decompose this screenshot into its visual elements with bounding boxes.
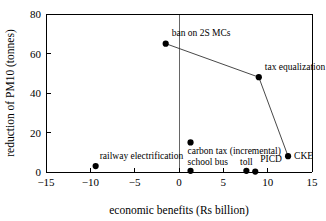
data-point-label: tax equalization (265, 62, 326, 72)
y-axis-title: reduction of PM10 (tonnes) (4, 29, 17, 157)
data-point-label: toll (240, 157, 253, 167)
y-tick-label: 80 (30, 8, 42, 20)
scatter-plot: −15−10−5051015 020406080 ban on 2S MCsta… (0, 0, 326, 221)
data-point-label: CKE (294, 151, 313, 161)
data-point-marker (256, 74, 262, 80)
data-point-label: ban on 2S MCs (172, 28, 231, 38)
data-point-marker (163, 41, 169, 47)
data-point-label: school bus (188, 157, 229, 167)
data-point-label: railway electrification (100, 151, 184, 161)
y-tick-label: 40 (30, 87, 42, 99)
x-tick-label: 5 (221, 176, 227, 188)
data-point-marker (285, 153, 291, 159)
x-tick-label: 0 (176, 176, 182, 188)
x-tick-label: 15 (307, 176, 319, 188)
x-tick-label: 10 (262, 176, 274, 188)
y-tick-label: 0 (36, 166, 42, 178)
data-point-marker (243, 168, 249, 174)
data-point-marker (93, 163, 99, 169)
data-point-marker (187, 139, 193, 145)
data-point-marker (187, 168, 193, 174)
data-point-marker (252, 169, 258, 175)
y-tick-label: 20 (30, 127, 42, 139)
x-axis-title: economic benefits (Rs billion) (109, 204, 249, 217)
chart-figure: −15−10−5051015 020406080 ban on 2S MCsta… (0, 0, 326, 221)
y-tick-label: 60 (30, 48, 42, 60)
x-tick-label: −5 (129, 176, 141, 188)
data-point-label: PICD (260, 154, 282, 164)
x-tick-label: −10 (82, 176, 100, 188)
